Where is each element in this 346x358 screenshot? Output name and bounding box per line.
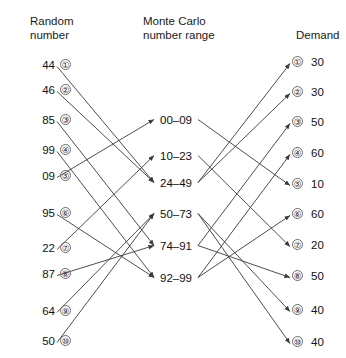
demand-value: 30 bbox=[311, 56, 324, 68]
connector-line bbox=[198, 246, 290, 278]
connector-line bbox=[57, 156, 154, 250]
connector-line bbox=[57, 152, 154, 278]
demand-value: 30 bbox=[311, 86, 324, 98]
random-number-index-9: ⑨ bbox=[60, 305, 71, 316]
demand-index-3: ③ bbox=[292, 116, 303, 127]
demand-value: 40 bbox=[311, 304, 324, 316]
random-number-index-6: ⑥ bbox=[60, 207, 71, 218]
connector-line bbox=[198, 214, 290, 312]
random-number-value: 85 bbox=[42, 114, 55, 126]
random-number-value: 99 bbox=[42, 144, 55, 156]
random-number-value: 09 bbox=[42, 170, 55, 182]
demand-value: 50 bbox=[311, 270, 324, 282]
monte-carlo-range-label: 92–99 bbox=[160, 272, 192, 284]
random-number-value: 44 bbox=[42, 59, 55, 71]
random-number-value: 95 bbox=[42, 207, 55, 219]
connector-line bbox=[198, 120, 290, 186]
connector-line bbox=[198, 216, 290, 278]
connector-line bbox=[198, 64, 290, 183]
random-number-index-3: ③ bbox=[60, 114, 71, 125]
random-number-index-8: ⑧ bbox=[60, 268, 71, 279]
connector-line bbox=[57, 246, 154, 276]
demand-index-10: ⑩ bbox=[292, 336, 303, 347]
demand-index-2: ② bbox=[292, 86, 303, 97]
random-number-index-1: ① bbox=[60, 59, 71, 70]
monte-carlo-mapping-diagram: Random number Monte Carlo number range D… bbox=[0, 0, 346, 358]
demand-index-5: ⑤ bbox=[292, 178, 303, 189]
random-number-value: 64 bbox=[42, 305, 55, 317]
connector-line bbox=[57, 214, 154, 343]
demand-index-8: ⑧ bbox=[292, 270, 303, 281]
connector-line bbox=[57, 214, 154, 313]
monte-carlo-range-label: 50–73 bbox=[160, 208, 192, 220]
connector-line bbox=[57, 122, 154, 246]
demand-index-6: ⑥ bbox=[292, 208, 303, 219]
random-number-index-10: ⑩ bbox=[60, 335, 71, 346]
random-number-value: 22 bbox=[42, 242, 55, 254]
demand-value: 10 bbox=[311, 178, 324, 190]
demand-value: 50 bbox=[311, 116, 324, 128]
demand-value: 60 bbox=[311, 208, 324, 220]
random-number-index-2: ② bbox=[60, 84, 71, 95]
demand-value: 60 bbox=[311, 147, 324, 159]
demand-index-4: ④ bbox=[292, 147, 303, 158]
connector-line bbox=[57, 215, 154, 278]
demand-index-9: ⑨ bbox=[292, 304, 303, 315]
random-number-value: 50 bbox=[42, 335, 55, 347]
monte-carlo-range-label: 00–09 bbox=[160, 114, 192, 126]
monte-carlo-range-label: 74–91 bbox=[160, 240, 192, 252]
connector-line bbox=[57, 67, 154, 183]
demand-value: 40 bbox=[311, 336, 324, 348]
demand-index-7: ⑦ bbox=[292, 239, 303, 250]
demand-value: 20 bbox=[311, 239, 324, 251]
random-number-value: 87 bbox=[42, 268, 55, 280]
monte-carlo-range-label: 10–23 bbox=[160, 150, 192, 162]
monte-carlo-range-label: 24–49 bbox=[160, 177, 192, 189]
random-number-index-4: ④ bbox=[60, 144, 71, 155]
connector-line bbox=[198, 155, 290, 278]
connector-line bbox=[198, 124, 290, 246]
random-number-value: 46 bbox=[42, 84, 55, 96]
demand-index-1: ① bbox=[292, 56, 303, 67]
random-number-index-7: ⑦ bbox=[60, 242, 71, 253]
random-number-index-5: ⑤ bbox=[60, 170, 71, 181]
